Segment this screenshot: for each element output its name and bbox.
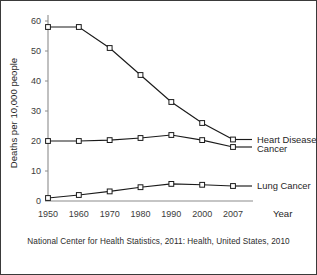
y-axis-title: Deaths per 10,000 people <box>8 58 19 168</box>
series-data-point <box>76 25 81 30</box>
series-data-point <box>76 139 81 144</box>
y-tick-label: 50 <box>31 46 41 56</box>
series-data-point <box>200 182 205 187</box>
series-line <box>48 27 233 140</box>
y-tick-label: 30 <box>31 106 41 116</box>
x-tick-label: 1950 <box>38 209 58 219</box>
series-label-lung-cancer: Lung Cancer <box>257 180 311 191</box>
y-tick-label: 60 <box>31 16 41 26</box>
x-tick-label: 2000 <box>192 209 212 219</box>
series-labels: Heart DiseaseCancerLung Cancer <box>257 134 316 192</box>
y-tick-label: 20 <box>31 136 41 146</box>
series-label-cancer: Cancer <box>257 143 287 154</box>
y-axis-ticks: 0102030405060 <box>31 16 48 206</box>
line-chart-svg: Deaths per 10,000 people 0102030405060 1… <box>1 1 316 233</box>
x-axis-title-text: Year <box>273 208 293 219</box>
series-data-point <box>231 145 236 150</box>
series-data-point <box>169 182 174 187</box>
chart-figure: Deaths per 10,000 people 0102030405060 1… <box>0 0 317 275</box>
series-data-point <box>138 136 143 141</box>
series-data-point <box>46 196 51 201</box>
x-tick-label: 1980 <box>130 209 150 219</box>
series-data-point <box>200 138 205 143</box>
x-tick-label: 1990 <box>161 209 181 219</box>
source-caption: National Center for Health Statistics, 2… <box>1 237 316 246</box>
series-data-point <box>231 137 236 142</box>
series-layer <box>46 25 252 201</box>
series-data-point <box>169 133 174 138</box>
series-data-point <box>46 25 51 30</box>
chart-plot-area: Deaths per 10,000 people 0102030405060 1… <box>1 1 316 233</box>
series-data-point <box>107 138 112 143</box>
x-tick-label: 1960 <box>69 209 89 219</box>
series-data-point <box>138 185 143 190</box>
series-data-point <box>107 189 112 194</box>
x-tick-label: 2007 <box>223 209 243 219</box>
series-data-point <box>200 121 205 126</box>
series-data-point <box>76 193 81 198</box>
series-data-point <box>231 184 236 189</box>
y-tick-label: 0 <box>36 196 41 206</box>
series-data-point <box>169 100 174 105</box>
x-tick-label: 1970 <box>100 209 120 219</box>
series-data-point <box>46 139 51 144</box>
axis-lines <box>48 15 253 201</box>
y-tick-label: 10 <box>31 166 41 176</box>
series-data-point <box>107 46 112 51</box>
y-tick-label: 40 <box>31 76 41 86</box>
series-data-point <box>138 73 143 78</box>
x-axis-ticks: 1950196019701980199020002007 <box>38 209 243 219</box>
y-axis-title-text: Deaths per 10,000 people <box>8 58 19 168</box>
x-axis-title: Year <box>273 208 293 219</box>
